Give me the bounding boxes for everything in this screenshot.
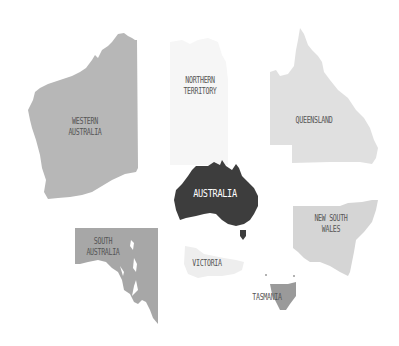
australia-tasmania-shape	[240, 230, 246, 240]
western-australia-label: WESTERN AUSTRALIA	[62, 116, 109, 138]
northern-territory-shape	[170, 38, 228, 165]
queensland-label: QUEENSLAND	[290, 115, 338, 126]
queensland-shape	[270, 28, 378, 164]
northern-territory-label: NORTHERN TERRITORY	[177, 75, 224, 97]
new-south-wales-shape	[293, 200, 378, 276]
victoria-label: VICTORIA	[189, 258, 225, 269]
south-australia-label: SOUTH AUSTRALIA	[84, 236, 123, 258]
new-south-wales-label: NEW SOUTH WALES	[307, 213, 355, 235]
tasmania-label: TASMANIA	[249, 292, 285, 303]
australia-label: AUSTRALIA	[188, 187, 243, 200]
australia-states-diagram: WESTERN AUSTRALIA NORTHERN TERRITORY QUE…	[0, 0, 399, 346]
map-shapes	[0, 0, 399, 346]
